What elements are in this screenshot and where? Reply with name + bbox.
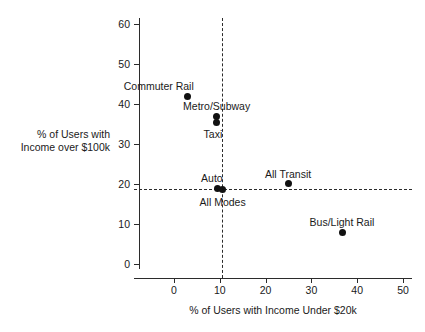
y-tick-mark [134,24,139,25]
data-point-label: All Transit [265,168,311,180]
y-axis-title: % of Users with Income over $100k [6,128,110,154]
y-axis-line [139,18,140,269]
x-tick-mark [311,278,312,283]
y-axis-title-line2: Income over $100k [21,141,110,153]
y-tick-label: 50 [106,59,130,70]
x-tick-label: 0 [159,285,189,296]
y-tick-label: 0 [106,259,130,270]
x-tick-mark [220,278,221,283]
x-tick-label: 50 [388,285,418,296]
x-tick-label: 40 [342,285,372,296]
y-tick-label: 20 [106,179,130,190]
data-point-label: Metro/Subway [183,100,250,112]
data-point-label: Bus/Light Rail [310,216,375,228]
y-tick-mark [134,264,139,265]
reference-line-horizontal [134,189,412,190]
y-tick-mark [134,224,139,225]
data-point-label: All Modes [200,196,246,208]
y-tick-label: 40 [106,99,130,110]
reference-line-vertical [222,18,223,278]
y-tick-mark [134,144,139,145]
x-tick-label: 10 [205,285,235,296]
x-tick-mark [174,278,175,283]
scatter-chart: 0102030405060 01020304050 Commuter RailM… [0,0,425,332]
x-tick-mark [357,278,358,283]
x-tick-mark [266,278,267,283]
data-point-label: Commuter Rail [124,80,194,92]
y-axis-title-line1: % of Users with [37,128,110,140]
x-tick-label: 30 [296,285,326,296]
data-point-label: Taxi [204,128,223,140]
x-axis-line [134,278,412,279]
data-point[interactable] [285,180,292,187]
data-point[interactable] [219,186,226,193]
x-tick-mark [403,278,404,283]
x-tick-label: 20 [251,285,281,296]
x-axis-title: % of Users with Income Under $20k [134,304,412,316]
y-tick-mark [134,64,139,65]
y-tick-label: 60 [106,19,130,30]
y-tick-label: 10 [106,219,130,230]
y-tick-mark [134,184,139,185]
data-point[interactable] [339,229,346,236]
data-point-label: Auto [201,172,223,184]
y-tick-mark [134,104,139,105]
data-point[interactable] [184,93,191,100]
data-point[interactable] [213,119,220,126]
